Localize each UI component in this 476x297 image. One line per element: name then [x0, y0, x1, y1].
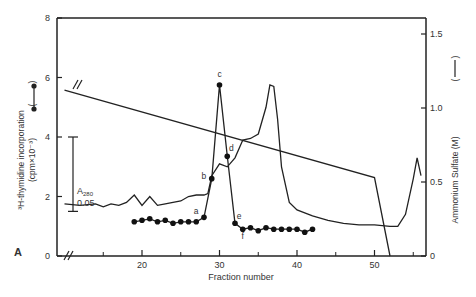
point-label-e: e — [237, 211, 242, 221]
legend-thymidine-icon: ( ) — [27, 80, 37, 111]
x-tick-label: 20 — [137, 260, 147, 270]
gradient-break-icon — [73, 80, 82, 89]
data-point — [255, 228, 261, 234]
panel-label: A — [14, 246, 22, 258]
data-point — [186, 219, 192, 225]
ammonium-sulfate-gradient-line — [65, 90, 391, 256]
data-point — [217, 82, 223, 88]
data-point — [170, 220, 176, 226]
data-point — [224, 154, 230, 160]
thymidine-incorporation-line — [134, 85, 312, 232]
point-label-b: b — [201, 171, 206, 181]
y-right-tick-label: 1.0 — [430, 103, 443, 113]
x-axis-title: Fraction number — [208, 272, 274, 282]
x-tick-label: 50 — [369, 260, 379, 270]
data-point — [232, 220, 238, 226]
data-point — [302, 229, 308, 235]
y-right-axis-ticks: 00.51.01.5 — [421, 29, 443, 261]
x-tick-label: 30 — [214, 260, 224, 270]
y-left-tick-label: 0 — [45, 251, 50, 261]
data-point — [162, 218, 168, 224]
y-left-tick-label: 8 — [45, 13, 50, 23]
point-label-a: a — [194, 206, 199, 216]
point-label-d: d — [229, 143, 234, 153]
y-left-axis-unit: (cpm×10⁻³) — [27, 138, 37, 182]
scale-bar-label-sub: 280 — [83, 191, 94, 197]
y-left-axis-title: ³H-thymidine incorporation — [16, 110, 26, 210]
data-point — [201, 215, 207, 221]
y-right-tick-label: 1.5 — [430, 29, 443, 39]
plot-frame — [57, 18, 426, 256]
data-point — [209, 176, 215, 182]
scale-bar-value: 0.05 — [77, 198, 95, 208]
y-right-axis-title: Ammonium Sulfate (M) — [450, 136, 460, 223]
data-point — [310, 226, 316, 232]
point-label-c: c — [217, 69, 222, 79]
x-tick-label: 40 — [292, 260, 302, 270]
svg-text:): ) — [27, 80, 37, 83]
svg-text:): ) — [450, 55, 460, 58]
y-left-tick-label: 6 — [45, 73, 50, 83]
data-point — [286, 226, 292, 232]
a280-scale-bar: A280 0.05 — [68, 137, 95, 211]
data-point — [178, 219, 184, 225]
thymidine-data-points — [131, 82, 315, 235]
svg-text:(: ( — [27, 103, 37, 106]
point-label-f: f — [242, 231, 245, 241]
a280-absorbance-curve — [65, 85, 422, 226]
data-point — [271, 226, 277, 232]
svg-text:(: ( — [450, 78, 460, 81]
chart-figure: 20304050 02468 00.51.01.5 abcdef A280 0.… — [0, 0, 476, 297]
data-point — [279, 226, 285, 232]
data-point — [147, 216, 153, 222]
data-point — [263, 225, 269, 231]
data-point — [248, 225, 254, 231]
y-right-tick-label: 0.5 — [430, 177, 443, 187]
data-point — [193, 219, 199, 225]
data-point — [155, 219, 161, 225]
y-left-axis-ticks: 02468 — [45, 13, 62, 261]
data-point — [131, 219, 137, 225]
legend-sulfate-icon: ( ) — [450, 55, 460, 81]
svg-text:A280: A280 — [77, 186, 94, 197]
y-right-tick-label: 0 — [430, 251, 435, 261]
y-left-tick-label: 4 — [45, 132, 50, 142]
y-left-tick-label: 2 — [45, 192, 50, 202]
data-point — [294, 226, 300, 232]
data-point — [139, 218, 145, 224]
x-axis-ticks: 20304050 — [103, 250, 413, 270]
